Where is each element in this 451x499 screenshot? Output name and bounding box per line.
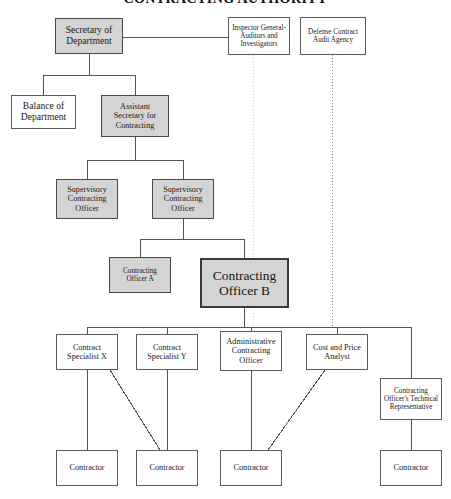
node-balance-of-department[interactable]: Balance of Department <box>11 95 76 129</box>
node-label: Contracting Officer's Technical Represen… <box>381 387 441 411</box>
page-title: CONTRACTING AUTHORITY <box>0 0 451 7</box>
node-administrative-contracting-officer[interactable]: Administrative Contracting Officer <box>220 331 282 371</box>
node-supervisory-contracting-officer-left[interactable]: Supervisory Contracting Officer <box>56 179 118 219</box>
node-label: Cost and Price Analyst <box>307 343 367 361</box>
node-contracting-officer-b[interactable]: Contracting Officer B <box>200 258 289 308</box>
node-contractor-3[interactable]: Contractor <box>220 450 282 486</box>
edge-cost-contractor3 <box>268 370 325 450</box>
node-label: Supervisory Contracting Officer <box>153 185 213 213</box>
node-label: Secretary of Department <box>56 25 122 46</box>
node-contractor-2[interactable]: Contractor <box>136 450 198 486</box>
node-label: Contract Specialist X <box>57 343 117 361</box>
node-label: Contracting Officer A <box>110 267 170 283</box>
node-cost-and-price-analyst[interactable]: Cost and Price Analyst <box>306 334 368 370</box>
node-label: Contractor <box>231 463 270 472</box>
node-contract-specialist-x[interactable]: Contract Specialist X <box>56 334 118 370</box>
node-assistant-secretary-for-contracting[interactable]: Assistant Secretary for Contracting <box>101 95 169 137</box>
node-label: Contractor <box>147 463 186 472</box>
node-contract-specialist-y[interactable]: Contract Specialist Y <box>136 334 198 370</box>
node-contracting-officer-a[interactable]: Contracting Officer A <box>109 257 171 293</box>
node-supervisory-contracting-officer-right[interactable]: Supervisory Contracting Officer <box>152 179 214 219</box>
org-chart-canvas: CONTRACTING AUTHORITY <box>0 0 451 499</box>
node-label: Assistant Secretary for Contracting <box>102 102 168 130</box>
node-contractor-4[interactable]: Contractor <box>380 450 442 486</box>
node-secretary-of-department[interactable]: Secretary of Department <box>55 18 123 54</box>
node-label: Defense Contract Audit Agency <box>301 28 365 44</box>
node-label: Supervisory Contracting Officer <box>57 185 117 213</box>
node-label: Contracting Officer B <box>202 268 287 298</box>
node-inspector-general[interactable]: Inspector General-Auditors and Investiga… <box>228 17 290 55</box>
node-label: Contractor <box>67 463 106 472</box>
edge-specx-contractor2 <box>110 370 160 450</box>
node-label: Balance of Department <box>12 101 75 122</box>
node-label: Administrative Contracting Officer <box>221 337 281 365</box>
node-label: Contract Specialist Y <box>137 343 197 361</box>
node-contractor-1[interactable]: Contractor <box>56 450 118 486</box>
node-label: Inspector General-Auditors and Investiga… <box>229 24 289 48</box>
node-contracting-officers-technical-representative[interactable]: Contracting Officer's Technical Represen… <box>380 378 442 420</box>
connector-layer <box>0 0 451 499</box>
node-defense-contract-audit-agency[interactable]: Defense Contract Audit Agency <box>300 17 366 55</box>
node-label: Contractor <box>391 463 430 472</box>
